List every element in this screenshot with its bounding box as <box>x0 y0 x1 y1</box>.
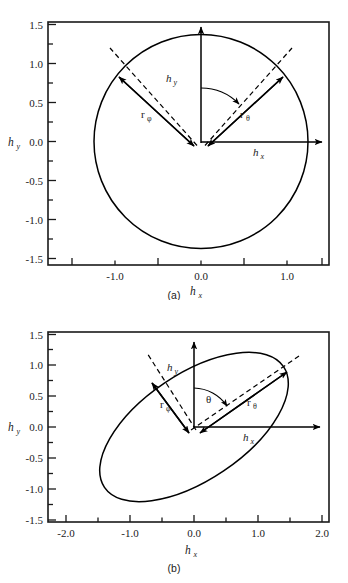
y-axis-title-sub: y <box>16 142 21 151</box>
r-phi-label-sub: φ <box>166 404 171 413</box>
y-axis-ticks-b <box>48 335 56 521</box>
y-axis-title-sub: y <box>16 427 21 436</box>
y-tick-label: -1.0 <box>26 483 44 495</box>
dashed-phi-axis <box>110 48 197 146</box>
x-tick-labels-b: -2.0 -1.0 0.0 1.0 2.0 <box>57 527 329 539</box>
x-tick-label: -2.0 <box>57 527 75 539</box>
y-axis-ticks-a <box>48 25 56 259</box>
x-axis-ticks-a <box>72 258 322 265</box>
x-axis-title-a: h x <box>190 285 203 300</box>
y-tick-label: -1.5 <box>26 514 44 526</box>
panel-a-plot: 1.5 1.0 0.5 0.0 -0.5 -1.0 -1.5 h y -1.0 … <box>0 0 348 300</box>
h-y-label-base: h <box>167 361 173 373</box>
x-axis-title-base: h <box>185 544 191 556</box>
r-phi-label-sub: φ <box>147 114 152 123</box>
x-tick-label: 0.0 <box>194 270 208 282</box>
x-tick-label: -1.0 <box>106 270 124 282</box>
h-y-label-sub: y <box>174 367 179 376</box>
x-axis-ticks-b <box>66 515 322 522</box>
y-tick-label: 1.0 <box>29 58 43 70</box>
y-axis-title-base: h <box>8 136 14 148</box>
y-tick-label: 1.0 <box>29 359 43 371</box>
r-theta-vector-in-a <box>208 77 283 146</box>
h-x-label-a: h x <box>253 146 265 161</box>
panel-label-b: (b) <box>168 562 181 574</box>
r-theta-label-sub: θ <box>253 402 257 411</box>
r-phi-label-a: r φ <box>141 108 152 123</box>
y-tick-label: -1.0 <box>26 214 44 226</box>
h-y-label-b: h y <box>167 361 179 376</box>
dashed-theta-axis <box>205 48 292 146</box>
y-tick-label: 1.5 <box>29 329 43 341</box>
panel-label-a: (a) <box>168 289 181 300</box>
h-x-label-sub: x <box>260 152 265 161</box>
y-tick-labels-a: 1.5 1.0 0.5 0.0 -0.5 -1.0 -1.5 <box>26 19 44 265</box>
y-tick-labels-b: 1.5 1.0 0.5 0.0 -0.5 -1.0 -1.5 <box>26 329 44 527</box>
x-tick-label: 1.0 <box>251 527 265 539</box>
h-x-label-base: h <box>253 146 259 158</box>
y-tick-label: -0.5 <box>26 452 44 464</box>
r-theta-label-base: r <box>247 396 251 408</box>
r-theta-vector-in-b <box>200 372 287 433</box>
theta-angle-label-b: θ <box>206 393 211 405</box>
angle-arc-a <box>201 88 239 104</box>
h-x-label-sub: x <box>250 437 255 446</box>
y-tick-label: 1.5 <box>29 19 43 31</box>
r-theta-label-b: r θ <box>247 396 257 411</box>
x-tick-label: 0.0 <box>187 527 201 539</box>
x-axis-title-b: h x <box>185 544 198 559</box>
x-axis-title-base: h <box>190 285 196 297</box>
y-axis-title-a: h y <box>8 136 21 151</box>
r-theta-label-base: r <box>240 108 244 120</box>
x-axis-title-sub: x <box>193 550 198 559</box>
x-tick-labels-a: -1.0 0.0 1.0 <box>106 270 294 282</box>
y-axis-title-base: h <box>8 421 14 433</box>
y-tick-label: 0.0 <box>29 421 43 433</box>
r-phi-label-base: r <box>141 108 145 120</box>
plot-frame-a <box>48 22 329 265</box>
x-tick-label: 2.0 <box>315 527 329 539</box>
panel-b: 1.5 1.0 0.5 0.0 -0.5 -1.0 -1.5 h y -2.0 <box>0 300 348 583</box>
h-y-label-sub: y <box>173 78 178 87</box>
r-phi-vector-in-a <box>119 77 194 146</box>
x-axis-title-sub: x <box>198 291 203 300</box>
y-tick-label: -0.5 <box>26 175 44 187</box>
y-axis-title-b: h y <box>8 421 21 436</box>
y-tick-label: 0.5 <box>29 97 43 109</box>
r-theta-label-a: r θ <box>240 108 250 123</box>
y-tick-label: 0.0 <box>29 136 43 148</box>
panel-b-plot: 1.5 1.0 0.5 0.0 -0.5 -1.0 -1.5 h y -2.0 <box>0 300 348 583</box>
y-tick-label: -1.5 <box>26 253 44 265</box>
h-x-label-b: h x <box>243 431 255 446</box>
h-x-label-base: h <box>243 431 249 443</box>
x-tick-label: 1.0 <box>280 270 294 282</box>
r-phi-label-base: r <box>160 398 164 410</box>
r-theta-label-sub: θ <box>246 114 250 123</box>
h-y-label-base: h <box>166 72 172 84</box>
h-y-label-a: h y <box>166 72 178 87</box>
x-tick-label: -1.0 <box>121 527 139 539</box>
panel-a: 1.5 1.0 0.5 0.0 -0.5 -1.0 -1.5 h y -1.0 … <box>0 0 348 300</box>
y-tick-label: 0.5 <box>29 390 43 402</box>
